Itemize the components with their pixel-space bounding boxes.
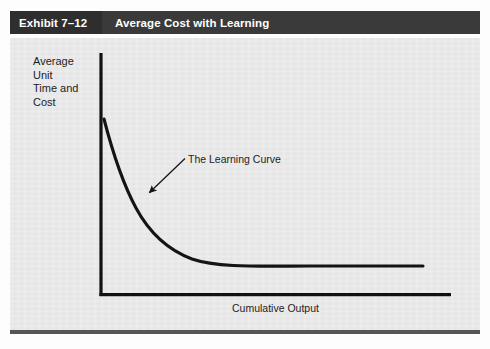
exhibit-title: Average Cost with Learning bbox=[102, 17, 269, 29]
exhibit-number-block: Exhibit 7–12 bbox=[10, 11, 102, 34]
exhibit-number-label: Exhibit 7–12 bbox=[19, 17, 87, 29]
y-axis-label-line-1: Average bbox=[33, 55, 95, 69]
figure-bottom-rule bbox=[10, 330, 480, 334]
y-axis-label-line-4: Cost bbox=[33, 96, 95, 110]
exhibit-figure: Exhibit 7–12 Average Cost with Learning … bbox=[0, 0, 490, 349]
y-axis-label-line-2: Unit bbox=[33, 69, 95, 83]
y-axis-label: Average Unit Time and Cost bbox=[33, 55, 95, 109]
y-axis-label-line-3: Time and bbox=[33, 82, 95, 96]
exhibit-header-bar: Exhibit 7–12 Average Cost with Learning bbox=[10, 11, 480, 34]
x-axis-label: Cumulative Output bbox=[232, 302, 319, 314]
learning-curve-annotation-label: The Learning Curve bbox=[188, 153, 281, 165]
